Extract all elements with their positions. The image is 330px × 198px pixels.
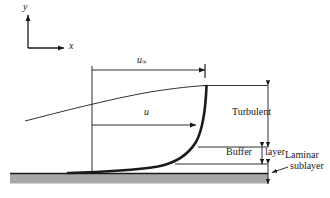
wall-surface-band bbox=[10, 174, 268, 184]
free-stream-velocity-subscript: ∞ bbox=[142, 58, 147, 66]
sublayer-label: sublayer bbox=[290, 161, 324, 172]
x-axis-label: x bbox=[69, 41, 73, 52]
y-axis-label: y bbox=[23, 2, 27, 13]
local-velocity-label: u bbox=[144, 107, 149, 118]
buffer-label: Buffer bbox=[226, 147, 252, 158]
boundary-layer-diagram: y x u∞ u Turbulent Buffer layer Laminar … bbox=[0, 0, 330, 198]
turbulent-region-label: Turbulent bbox=[232, 107, 271, 118]
boundary-layer-edge-curve bbox=[25, 86, 207, 122]
free-stream-velocity-label: u∞ bbox=[137, 55, 147, 67]
velocity-profile-curve bbox=[68, 86, 207, 173]
buffer-layer-word-label: layer bbox=[265, 147, 285, 158]
diagram-canvas bbox=[0, 0, 330, 198]
laminar-sublayer-callout-leader bbox=[272, 167, 288, 173]
